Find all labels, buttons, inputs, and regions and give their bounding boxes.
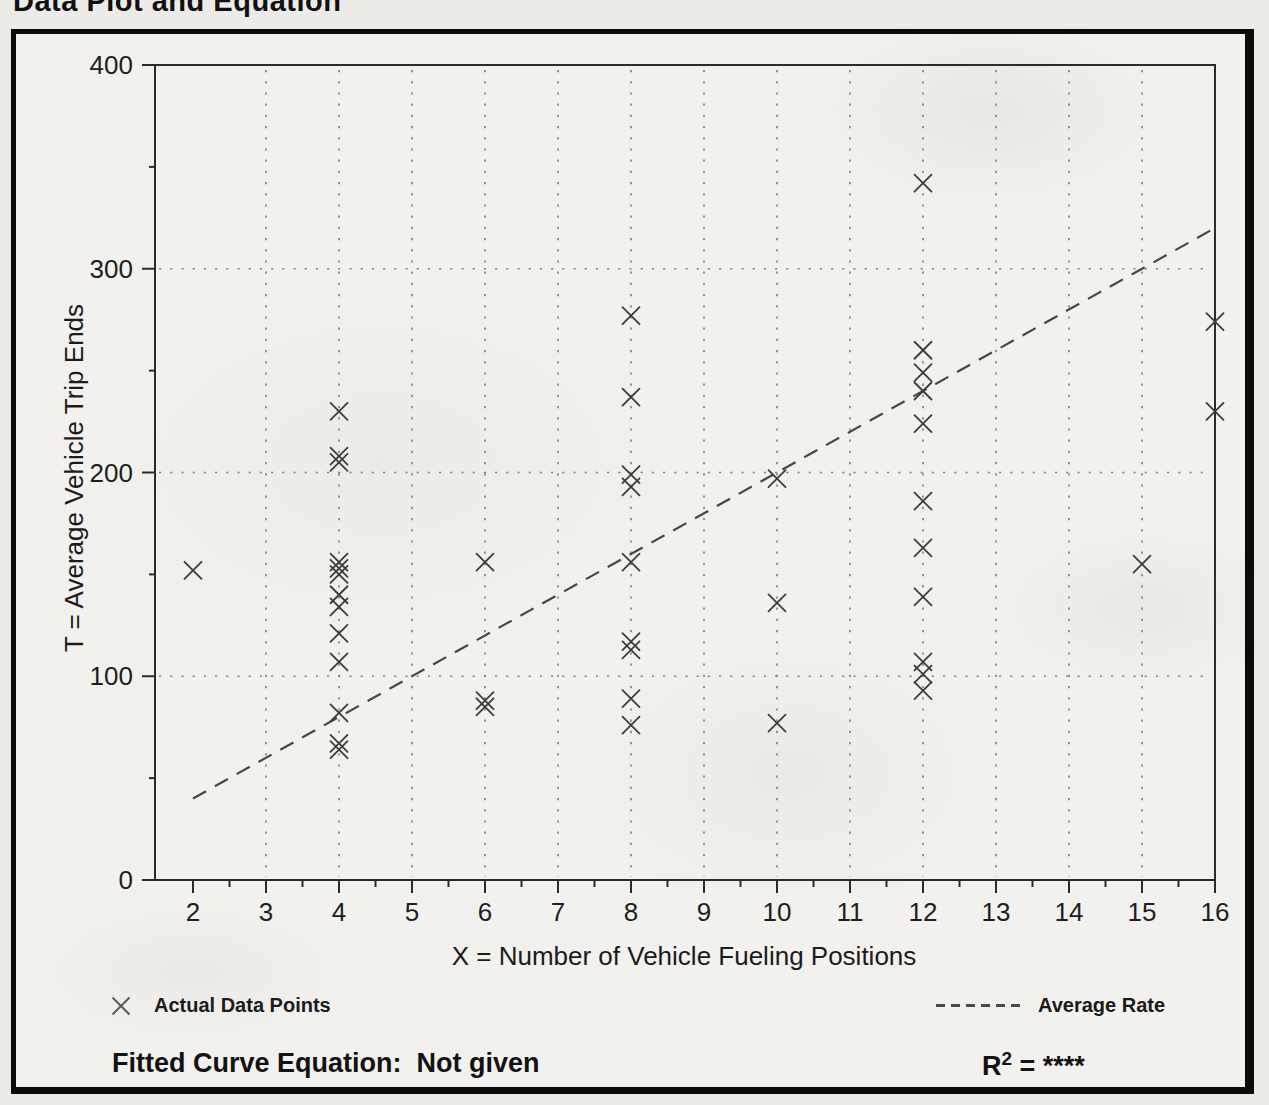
data-point-marker (623, 690, 640, 707)
x-tick-label: 15 (1128, 897, 1157, 927)
x-tick-label: 2 (186, 897, 200, 927)
x-tick-label: 8 (624, 897, 638, 927)
equation-value: Not given (417, 1048, 540, 1078)
data-point-marker (769, 715, 786, 732)
x-marker-icon (110, 995, 132, 1017)
r-squared-value: R2 = **** (982, 1048, 1085, 1082)
y-tick-label: 300 (90, 254, 133, 284)
x-tick-label: 7 (551, 897, 565, 927)
data-point-marker (623, 389, 640, 406)
legend-average-rate-label: Average Rate (1038, 994, 1165, 1017)
x-tick-label: 14 (1055, 897, 1084, 927)
data-point-marker (915, 588, 932, 605)
data-point-marker (331, 704, 348, 721)
y-axis-title: T = Average Vehicle Trip Ends (59, 304, 90, 652)
x-tick-label: 3 (259, 897, 273, 927)
axis-ticks (142, 65, 1215, 893)
x-tick-label: 11 (837, 897, 864, 927)
x-tick-label: 9 (697, 897, 711, 927)
average-rate-line (193, 228, 1215, 799)
r2-exponent: 2 (1002, 1048, 1013, 1069)
data-point-marker (915, 342, 932, 359)
data-point-marker (623, 554, 640, 571)
y-tick-label: 400 (90, 50, 133, 80)
fitted-curve-equation: Fitted Curve Equation:Not given (112, 1048, 540, 1079)
data-point-marker (623, 633, 640, 650)
data-point-marker (915, 666, 932, 683)
data-point-marker (331, 653, 348, 670)
data-point-marker (915, 682, 932, 699)
dashed-line-icon (936, 1004, 1024, 1007)
legend-data-points-label: Actual Data Points (154, 994, 331, 1017)
data-point-marker (623, 307, 640, 324)
r2-base: R (982, 1051, 1002, 1081)
x-axis-title: X = Number of Vehicle Fueling Positions (452, 941, 917, 972)
y-tick-label: 0 (119, 865, 133, 895)
x-tick-label: 13 (982, 897, 1011, 927)
gridlines (159, 70, 1211, 877)
data-point-marker (1134, 556, 1151, 573)
data-point-marker (915, 364, 932, 381)
legend-data-points: Actual Data Points (110, 994, 331, 1017)
equation-label: Fitted Curve Equation: (112, 1048, 402, 1078)
data-point-marker (477, 554, 494, 571)
data-point-marker (915, 175, 932, 192)
x-tick-label: 6 (478, 897, 492, 927)
legend-average-rate: Average Rate (936, 994, 1165, 1017)
scatter-chart: 01002003004002345678910111213141516 (0, 0, 1269, 1105)
x-tick-label: 4 (332, 897, 346, 927)
axis-tick-labels: 01002003004002345678910111213141516 (90, 50, 1230, 927)
data-point-marker (185, 562, 202, 579)
data-point-marker (623, 478, 640, 495)
x-tick-label: 16 (1201, 897, 1230, 927)
data-point-marker (331, 598, 348, 615)
y-tick-label: 200 (90, 458, 133, 488)
x-tick-label: 12 (909, 897, 938, 927)
x-tick-label: 10 (763, 897, 792, 927)
data-point-marker (623, 641, 640, 658)
scanned-page: Data Plot and Equation 01002003004002345… (0, 0, 1269, 1105)
y-tick-label: 100 (90, 661, 133, 691)
data-point-marker (331, 625, 348, 642)
x-tick-label: 5 (405, 897, 419, 927)
r2-rest: = **** (1012, 1051, 1085, 1081)
